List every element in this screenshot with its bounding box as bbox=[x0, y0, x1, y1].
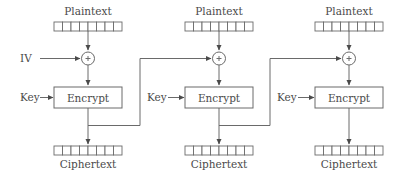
plaintext-label: Plaintext bbox=[64, 5, 112, 17]
plaintext-label: Plaintext bbox=[325, 5, 373, 17]
key-label: Key bbox=[147, 91, 167, 103]
ciphertext-register bbox=[54, 146, 122, 155]
xor-icon bbox=[343, 52, 356, 65]
plaintext-register bbox=[185, 22, 253, 31]
ciphertext-label: Ciphertext bbox=[191, 158, 248, 170]
ciphertext-register bbox=[315, 146, 383, 155]
xor-icon bbox=[213, 52, 226, 65]
block-1: Plaintext Key Encrypt Ciphertext bbox=[20, 5, 122, 170]
encrypt-label: Encrypt bbox=[198, 92, 241, 104]
ciphertext-label: Ciphertext bbox=[321, 158, 378, 170]
cbc-diagram: IV Plaintext Key Encrypt Ciphertext bbox=[0, 0, 399, 179]
ciphertext-register bbox=[185, 146, 253, 155]
plaintext-label: Plaintext bbox=[195, 5, 243, 17]
encrypt-label: Encrypt bbox=[67, 92, 110, 104]
xor-icon bbox=[82, 52, 95, 65]
plaintext-register bbox=[54, 22, 122, 31]
key-label: Key bbox=[20, 91, 40, 103]
ciphertext-label: Ciphertext bbox=[60, 158, 117, 170]
iv-label: IV bbox=[20, 52, 32, 64]
block-3: Plaintext Key Encrypt Ciphertext bbox=[277, 5, 383, 170]
plaintext-register bbox=[315, 22, 383, 31]
key-label: Key bbox=[277, 91, 297, 103]
block-2: Plaintext Key Encrypt Ciphertext bbox=[147, 5, 253, 170]
encrypt-label: Encrypt bbox=[328, 92, 371, 104]
